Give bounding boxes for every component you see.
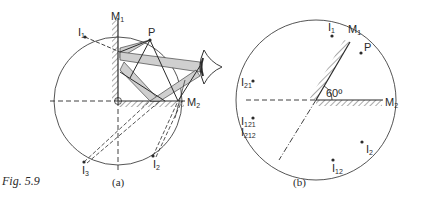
- label-i21-b: I21: [241, 76, 252, 89]
- panel-b-label: (b): [293, 176, 306, 189]
- point-i21-b: [251, 79, 254, 82]
- label-m2-a: M2: [187, 96, 200, 109]
- figure-caption: Fig. 5.9: [1, 174, 40, 188]
- beam-3: [120, 62, 160, 101]
- mirror-m1-hatch-a: [112, 20, 118, 101]
- figure-5-9: M1 M2 P I1 I2 I3 (a) I1 M1 P 60º M2 I21 …: [0, 0, 421, 200]
- point-p-b: [359, 51, 362, 54]
- construction-i2-a: [153, 101, 178, 156]
- point-i2-b: [360, 140, 363, 143]
- label-angle: 60º: [326, 87, 342, 99]
- panel-a: M1 M2 P I1 I2 I3 (a): [50, 10, 222, 189]
- label-m1-a: M1: [111, 10, 124, 23]
- panel-b: I1 M1 P 60º M2 I21 I121 I212 I2 I12 (b): [236, 20, 398, 189]
- point-i121-b: [251, 116, 254, 119]
- mirror-m2-hatch-b: [316, 100, 382, 106]
- point-i1-b: [330, 34, 333, 37]
- label-p-b: P: [364, 41, 371, 53]
- construction-i2-b: [156, 101, 182, 157]
- label-m1-b: M1: [348, 23, 361, 36]
- panel-a-label: (a): [112, 176, 125, 189]
- ray-p-m1: [120, 40, 150, 52]
- mirror-m2-hatch-a: [118, 101, 184, 107]
- label-i2-b: I2: [366, 143, 373, 156]
- construction-i3-b: [87, 101, 160, 163]
- eye-icon: [200, 50, 222, 84]
- label-i12-b: I12: [332, 162, 343, 175]
- construction-i3-a: [84, 101, 150, 162]
- dashed-extension-m1-b: [279, 100, 316, 160]
- label-i1-b: I1: [328, 21, 335, 34]
- ray-m1-m2: [120, 72, 165, 101]
- label-i2-a: I2: [153, 158, 160, 171]
- label-i3-a: I3: [82, 164, 89, 177]
- label-i1-a: I1: [78, 26, 85, 39]
- point-p-a: [148, 38, 151, 41]
- label-p-a: P: [148, 26, 155, 38]
